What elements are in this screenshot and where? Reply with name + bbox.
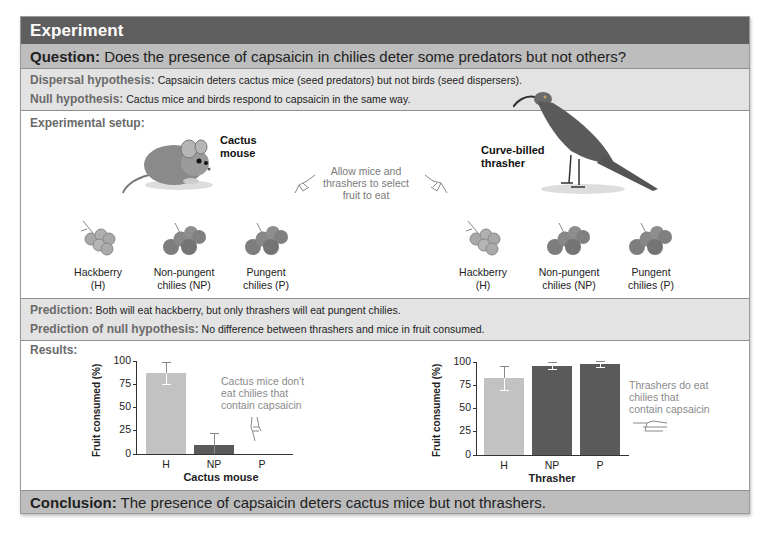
error-cap (210, 433, 219, 434)
cactus-mouse-label: Cactus mouse (220, 134, 257, 160)
x-tick: H (146, 458, 186, 470)
dispersal-hypothesis: Dispersal hypothesis: Capsaicin deters c… (30, 73, 522, 87)
cactus-mouse-label-line2: mouse (220, 147, 257, 160)
y-tick: 100 (447, 355, 471, 367)
dispersal-hypothesis-text: Capsaicin deters cactus mice (seed preda… (158, 74, 522, 86)
fruit-label-line1: Pungent (216, 266, 316, 279)
y-axis-label: Fruit consumed (%) (431, 364, 442, 457)
null-prediction-text: No difference between thrashers and mice… (202, 323, 485, 335)
experimental-setup: Experimental setup: Cactus mouse Allow m… (21, 111, 749, 299)
instruction-line2: thrashers to select (311, 177, 421, 189)
conclusion-text: The presence of capsaicin deters cactus … (121, 494, 546, 511)
y-tick-mark (133, 361, 137, 362)
null-prediction-label: Prediction of null hypothesis: (30, 322, 199, 336)
null-hypothesis-text: Cactus mice and birds respond to capsaic… (126, 93, 410, 105)
fruit-label-line2: chilies (P) (601, 279, 701, 292)
results-band: Results: Fruit consumed (%) 100 75 50 25… (21, 341, 749, 490)
fruit-label-line2: chilies (P) (216, 279, 316, 292)
bar-NP (532, 366, 572, 455)
instruction-line3: fruit to eat (311, 189, 421, 201)
fruit-label-pungent-thrasher: Pungent chilies (P) (601, 266, 701, 292)
annotation-line3: contain capsaicin (629, 403, 710, 415)
figure-header: Experiment (21, 17, 749, 44)
error-cap (500, 366, 509, 367)
question-text: Does the presence of capsaicin in chilie… (104, 48, 626, 65)
fruit-label-line1: Hackberry (48, 266, 148, 279)
annotation-line2: eat chilies that (221, 387, 304, 399)
error-cap (500, 390, 509, 391)
x-tick: P (580, 459, 620, 471)
error-cap (596, 361, 605, 362)
x-tick: P (242, 458, 282, 470)
error-bar (552, 362, 553, 369)
mouse-illustration-icon (119, 123, 229, 195)
y-tick: 75 (447, 378, 471, 390)
null-hypothesis-label: Null hypothesis: (30, 92, 123, 106)
error-cap (596, 367, 605, 368)
y-tick: 100 (107, 354, 131, 366)
conclusion-band: Conclusion: The presence of capsaicin de… (21, 490, 749, 513)
annotation-line1: Cactus mice don't (221, 375, 304, 387)
error-cap (548, 362, 557, 363)
y-tick: 25 (107, 423, 131, 435)
chart-annotation: Cactus mice don't eat chilies that conta… (221, 375, 304, 411)
bar-P (580, 364, 620, 455)
pointing-hand-down-icon (249, 417, 263, 441)
null-prediction: Prediction of null hypothesis: No differ… (30, 322, 484, 336)
fruit-label-line2: (H) (48, 279, 148, 292)
prediction: Prediction: Both will eat hackberry, but… (30, 303, 401, 317)
hackberry-icon (79, 219, 119, 257)
thrasher-chart: Fruit consumed (%) 100 75 50 25 0 (361, 341, 749, 490)
error-bar (504, 366, 505, 378)
error-cap (162, 362, 171, 363)
y-tick-mark (473, 385, 477, 386)
prediction-text: Both will eat hackberry, but only thrash… (96, 304, 401, 316)
bird-illustration-icon (513, 85, 663, 205)
y-tick-mark (133, 430, 137, 431)
x-tick: H (484, 459, 524, 471)
chili-cluster-icon (243, 221, 289, 259)
predictions-band: Prediction: Both will eat hackberry, but… (21, 299, 749, 341)
prediction-label: Prediction: (30, 303, 93, 317)
annotation-line1: Thrashers do eat (629, 379, 710, 391)
null-hypothesis: Null hypothesis: Cactus mice and birds r… (30, 92, 410, 106)
y-tick-mark (133, 384, 137, 385)
fruit-label-hackberry-thrasher: Hackberry (H) (433, 266, 533, 292)
x-axis-title: Thrasher (492, 472, 612, 484)
fruit-label-pungent-mouse: Pungent chilies (P) (216, 266, 316, 292)
error-bar (214, 433, 215, 454)
y-tick: 0 (447, 448, 471, 460)
conclusion-label: Conclusion: (30, 494, 117, 511)
question-band: Question: Does the presence of capsaicin… (21, 44, 749, 69)
bar-H (146, 373, 186, 454)
y-tick-mark (473, 408, 477, 409)
fruit-label-line2: (H) (433, 279, 533, 292)
y-tick-mark (473, 362, 477, 363)
chart-annotation: Thrashers do eat chilies that contain ca… (629, 379, 710, 415)
experiment-figure: Experiment Question: Does the presence o… (20, 16, 750, 514)
annotation-line2: chilies that (629, 391, 710, 403)
fruit-label-hackberry-mouse: Hackberry (H) (48, 266, 148, 292)
y-tick-mark (473, 431, 477, 432)
instruction-text: Allow mice and thrashers to select fruit… (311, 165, 421, 201)
error-bar (504, 378, 505, 390)
y-tick-mark (133, 407, 137, 408)
pointing-hand-left-icon (633, 419, 669, 433)
chili-cluster-icon (627, 221, 673, 259)
error-cap (162, 384, 171, 385)
x-axis (133, 454, 293, 455)
hackberry-icon (464, 219, 504, 257)
question-label: Question: (30, 48, 100, 65)
pointing-hand-icon (423, 173, 449, 195)
x-axis (473, 455, 629, 456)
y-tick: 25 (447, 424, 471, 436)
error-cap (548, 369, 557, 370)
y-tick: 50 (107, 400, 131, 412)
y-tick: 50 (447, 401, 471, 413)
annotation-line3: contain capsaicin (221, 399, 304, 411)
error-bar (166, 362, 167, 373)
cactus-mouse-label-line1: Cactus (220, 134, 257, 147)
dispersal-hypothesis-label: Dispersal hypothesis: (30, 73, 155, 87)
y-tick: 0 (107, 447, 131, 459)
chili-cluster-icon (545, 221, 591, 259)
